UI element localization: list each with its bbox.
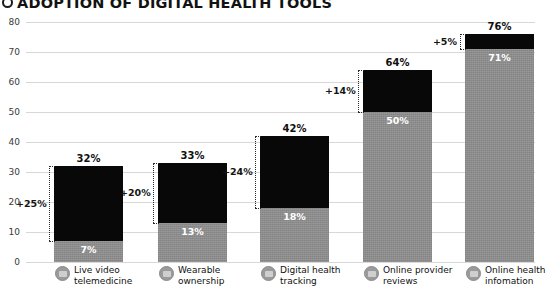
smartwatch-icon xyxy=(159,266,174,281)
category-label-3: Digital healthtracking xyxy=(261,265,354,293)
gridline xyxy=(26,112,535,113)
bar-column[interactable]: 33%13% xyxy=(158,163,227,262)
browser-info-icon xyxy=(466,266,481,281)
growth-bracket-cap xyxy=(49,241,55,243)
bar-baseline-label: 71% xyxy=(465,52,534,63)
category-label-1: Live videotelemedicine xyxy=(55,265,148,293)
y-axis-tick-label: 10 xyxy=(0,227,20,237)
bar-total-label: 32% xyxy=(54,153,123,164)
growth-bracket-cap xyxy=(358,112,364,114)
category-label-line2: infomation xyxy=(485,276,545,287)
gridline xyxy=(26,22,535,23)
bar-segment-growth xyxy=(363,70,432,112)
bar-total-label: 42% xyxy=(260,123,329,134)
y-axis-tick-label: 80 xyxy=(0,17,20,27)
bar-total-label: 33% xyxy=(158,150,227,161)
category-label-line2: ownership xyxy=(178,276,224,287)
page-title: ADOPTION OF DIGITAL HEALTH TOOLS xyxy=(17,0,332,10)
bar-segment-baseline xyxy=(363,112,432,262)
category-label-text: Digital healthtracking xyxy=(280,265,341,286)
activity-app-icon xyxy=(261,266,276,281)
bar-total-label: 64% xyxy=(363,57,432,68)
growth-bracket-cap xyxy=(460,34,466,36)
y-axis-tick-label: 70 xyxy=(0,47,20,57)
bar-column[interactable]: 42%18% xyxy=(260,136,329,262)
y-axis-tick-label: 50 xyxy=(0,107,20,117)
bar-segment-growth xyxy=(260,136,329,208)
category-label-line2: reviews xyxy=(383,276,452,287)
y-axis-tick-label: 30 xyxy=(0,167,20,177)
bar-column[interactable]: 76%71% xyxy=(465,34,534,262)
chart-title-strip: ADOPTION OF DIGITAL HEALTH TOOLS xyxy=(0,0,535,10)
plot-area: 32%7%33%13%42%18%64%50%76%71% +25%+20%+2… xyxy=(26,22,535,262)
category-label-line2: telemedicine xyxy=(74,276,132,287)
growth-bracket-cap xyxy=(153,223,159,225)
growth-label: +14% xyxy=(325,85,355,96)
category-label-line1: Live video xyxy=(74,265,132,276)
growth-label: +5% xyxy=(427,36,457,47)
bar-baseline-label: 18% xyxy=(260,211,329,222)
growth-bracket-line xyxy=(460,34,462,49)
category-label-line1: Online health xyxy=(485,265,545,276)
category-label-5: Online healthinfomation xyxy=(466,265,550,293)
category-label-text: Online healthinfomation xyxy=(485,265,545,286)
growth-label: +24% xyxy=(222,166,252,177)
growth-bracket-line xyxy=(358,70,360,112)
bar-segment-baseline xyxy=(465,49,534,262)
y-axis-tick-label: 0 xyxy=(0,257,20,267)
bar-column[interactable]: 64%50% xyxy=(363,70,432,262)
y-axis-tick-label: 40 xyxy=(0,137,20,147)
category-label-text: Live videotelemedicine xyxy=(74,265,132,286)
growth-bracket-cap xyxy=(255,208,261,210)
growth-label: +20% xyxy=(120,187,150,198)
bar-baseline-label: 13% xyxy=(158,226,227,237)
bar-texture xyxy=(363,112,432,262)
growth-bracket-cap xyxy=(255,136,261,138)
star-review-icon xyxy=(364,266,379,281)
bar-texture xyxy=(465,49,534,262)
growth-bracket-line xyxy=(153,163,155,223)
category-label-2: Wearableownership xyxy=(159,265,252,293)
growth-label: +25% xyxy=(16,198,46,209)
category-label-line1: Digital health xyxy=(280,265,341,276)
growth-bracket-line xyxy=(255,136,257,208)
bar-segment-growth xyxy=(158,163,227,223)
growth-bracket-cap xyxy=(460,49,466,51)
y-axis-tick-label: 20 xyxy=(0,197,20,207)
gridline xyxy=(26,52,535,53)
growth-bracket-cap xyxy=(153,163,159,165)
bar-baseline-label: 50% xyxy=(363,115,432,126)
bar-total-label: 76% xyxy=(465,21,534,32)
bar-column[interactable]: 32%7% xyxy=(54,166,123,262)
gridline xyxy=(26,82,535,83)
category-label-line2: tracking xyxy=(280,276,341,287)
gridline xyxy=(26,262,535,263)
video-camera-icon xyxy=(55,266,70,281)
bar-segment-growth xyxy=(465,34,534,49)
category-label-4: Online providerreviews xyxy=(364,265,457,293)
category-label-line1: Online provider xyxy=(383,265,452,276)
bar-baseline-label: 7% xyxy=(54,244,123,255)
growth-bracket-line xyxy=(49,166,51,241)
growth-bracket-cap xyxy=(358,70,364,72)
category-label-text: Wearableownership xyxy=(178,265,224,286)
category-label-line1: Wearable xyxy=(178,265,224,276)
y-axis-tick-label: 60 xyxy=(0,77,20,87)
category-label-text: Online providerreviews xyxy=(383,265,452,286)
growth-bracket-cap xyxy=(49,166,55,168)
bar-segment-growth xyxy=(54,166,123,241)
circle-bullet-icon xyxy=(2,0,13,8)
